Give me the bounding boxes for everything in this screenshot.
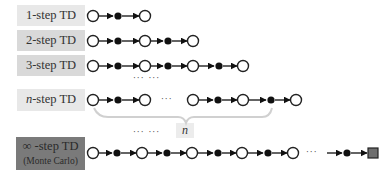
backup-diagram-graphic [0, 0, 387, 178]
